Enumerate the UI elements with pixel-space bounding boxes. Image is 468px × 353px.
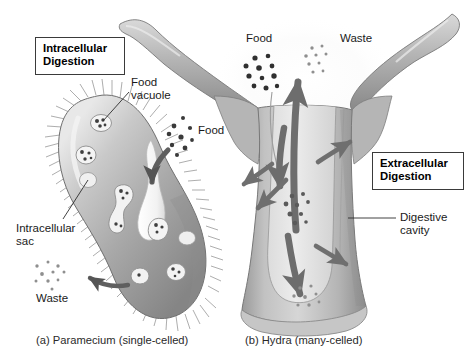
label-food-a: Food (198, 124, 224, 137)
food-particle-cluster-a (167, 116, 194, 157)
label-waste-b: Waste (340, 32, 372, 45)
extracellular-digestion-box: Extracellular Digestion (372, 152, 464, 190)
caption-panel-a: (a) Paramecium (single-celled) (36, 334, 188, 346)
intracellular-digestion-box: Intracellular Digestion (35, 37, 125, 75)
label-food-vacuole: Food vacuole (131, 76, 171, 102)
food-vacuole (167, 264, 186, 281)
label-intracellular-sac: Intracellular sac (16, 222, 75, 248)
label-waste-a: Waste (36, 292, 68, 305)
label-digestive-cavity: Digestive cavity (400, 211, 447, 237)
food-vacuole (76, 146, 96, 164)
caption-panel-b: (b) Hydra (many-celled) (245, 334, 363, 346)
intracellular-sac (179, 231, 196, 245)
food-vacuole (91, 115, 112, 132)
figure-canvas: Intracellular Digestion Extracellular Di… (0, 0, 468, 353)
food-vacuole (148, 218, 168, 240)
waste-out-arrow (294, 82, 298, 230)
label-food-b: Food (246, 32, 272, 45)
waste-particle-cluster-a (35, 261, 66, 291)
digestive-cavity (268, 104, 336, 303)
